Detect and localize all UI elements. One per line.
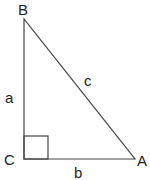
- vertex-label-a: A: [137, 152, 147, 169]
- vertex-label-b: B: [18, 1, 28, 18]
- vertex-label-c: C: [4, 151, 15, 168]
- side-label-a: a: [5, 89, 14, 106]
- side-label-b: b: [74, 164, 82, 180]
- right-angle-marker: [24, 136, 48, 159]
- side-label-c: c: [84, 72, 92, 89]
- triangle-outline: [24, 19, 135, 159]
- right-triangle-diagram: B C A a b c: [0, 0, 150, 180]
